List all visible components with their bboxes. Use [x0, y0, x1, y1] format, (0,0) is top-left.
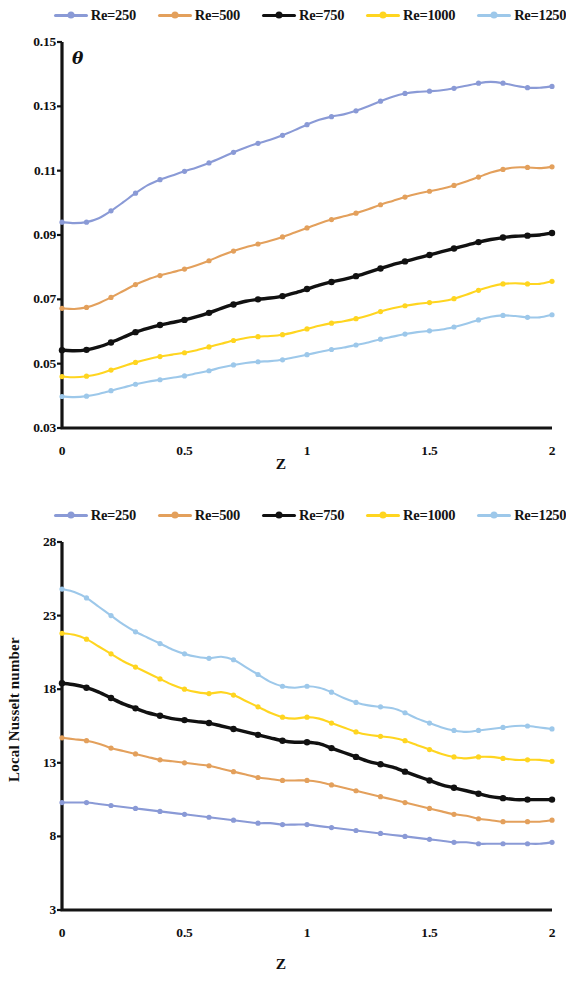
series-marker — [378, 337, 383, 342]
series-marker — [231, 338, 236, 343]
series-marker — [108, 803, 113, 808]
series-marker — [231, 769, 236, 774]
series-marker — [328, 745, 334, 751]
series-marker — [402, 710, 407, 715]
legend-swatch-marker — [275, 12, 282, 19]
series-marker — [157, 322, 163, 328]
series-marker — [280, 684, 285, 689]
series-marker — [427, 747, 432, 752]
legend-item-re-1000[interactable]: Re=1000 — [366, 7, 455, 24]
legend-item-re-500[interactable]: Re=500 — [158, 7, 240, 24]
series-marker — [427, 837, 432, 842]
series-marker — [83, 347, 89, 353]
series-marker — [304, 286, 310, 292]
series-marker — [255, 704, 260, 709]
series-marker — [402, 91, 407, 96]
series-marker — [500, 81, 505, 86]
series-marker — [157, 354, 162, 359]
series-marker — [182, 267, 187, 272]
legend-swatch-marker — [67, 512, 74, 519]
legend-item-re-1250[interactable]: Re=1250 — [477, 507, 566, 524]
series-marker — [157, 377, 162, 382]
series-marker — [231, 818, 236, 823]
series-marker — [206, 691, 211, 696]
legend-swatch-marker — [171, 12, 178, 19]
series-marker — [133, 282, 138, 287]
series-marker — [255, 732, 261, 738]
series-marker — [231, 657, 236, 662]
legend-theta: Re=250Re=500Re=750Re=1000Re=1250 — [60, 2, 560, 28]
legend-item-re-250[interactable]: Re=250 — [54, 7, 136, 24]
series-marker — [206, 310, 212, 316]
series-marker — [280, 822, 285, 827]
series-marker — [304, 778, 309, 783]
series-marker — [255, 775, 260, 780]
series-marker — [108, 339, 114, 345]
series-marker — [476, 81, 481, 86]
series-marker — [182, 760, 187, 765]
series-marker — [402, 303, 407, 308]
series-marker — [157, 273, 162, 278]
legend-swatch-line — [366, 514, 400, 517]
legend-item-re-500[interactable]: Re=500 — [158, 507, 240, 524]
series-marker — [451, 728, 456, 733]
series-marker — [108, 745, 113, 750]
series-marker — [255, 334, 260, 339]
legend-swatch-line — [54, 14, 88, 17]
series-marker — [157, 713, 163, 719]
series-marker — [353, 729, 358, 734]
series-marker — [108, 695, 114, 701]
series-marker — [549, 84, 554, 89]
series-marker — [549, 796, 555, 802]
series-marker — [206, 344, 211, 349]
series-marker — [500, 281, 505, 286]
series-marker — [84, 220, 89, 225]
series-marker — [402, 331, 407, 336]
legend-item-re-750[interactable]: Re=750 — [262, 507, 344, 524]
legend-item-re-1250[interactable]: Re=1250 — [477, 7, 566, 24]
series-marker — [525, 841, 530, 846]
series-marker — [182, 169, 187, 174]
legend-swatch-line — [366, 14, 400, 17]
series-marker — [206, 368, 211, 373]
legend-label: Re=500 — [195, 7, 240, 24]
series-marker — [255, 241, 260, 246]
nusselt-chart-panel: Re=250Re=500Re=750Re=1000Re=1250 Local N… — [0, 500, 562, 988]
series-marker — [451, 840, 456, 845]
series-marker — [329, 347, 334, 352]
series-marker — [525, 165, 530, 170]
series-marker — [280, 133, 285, 138]
series-marker — [230, 301, 236, 307]
series-marker — [84, 738, 89, 743]
series-marker — [280, 234, 285, 239]
x-tick-label: 1 — [304, 925, 311, 941]
legend-item-re-250[interactable]: Re=250 — [54, 507, 136, 524]
series-marker — [451, 86, 456, 91]
series-marker — [353, 108, 358, 113]
legend-item-re-750[interactable]: Re=750 — [262, 7, 344, 24]
nusselt-plot-svg — [0, 530, 562, 922]
series-marker — [133, 665, 138, 670]
legend-item-re-1000[interactable]: Re=1000 — [366, 507, 455, 524]
series-marker — [231, 150, 236, 155]
series-marker — [402, 194, 407, 199]
series-marker — [549, 726, 554, 731]
series-marker — [549, 818, 554, 823]
series-marker — [500, 795, 506, 801]
series-marker — [353, 211, 358, 216]
series-marker — [157, 177, 162, 182]
legend-label: Re=1250 — [514, 7, 566, 24]
legend-swatch-marker — [67, 12, 74, 19]
series-marker — [353, 754, 359, 760]
series-marker — [157, 757, 162, 762]
series-marker — [304, 225, 309, 230]
series-marker — [525, 819, 530, 824]
series-marker — [132, 705, 138, 711]
legend-label: Re=250 — [91, 507, 136, 524]
series-marker — [451, 754, 456, 759]
series-marker — [451, 324, 456, 329]
series-marker — [329, 782, 334, 787]
series-marker — [280, 332, 285, 337]
series-marker — [108, 613, 113, 618]
series-line-re-250 — [62, 82, 552, 223]
